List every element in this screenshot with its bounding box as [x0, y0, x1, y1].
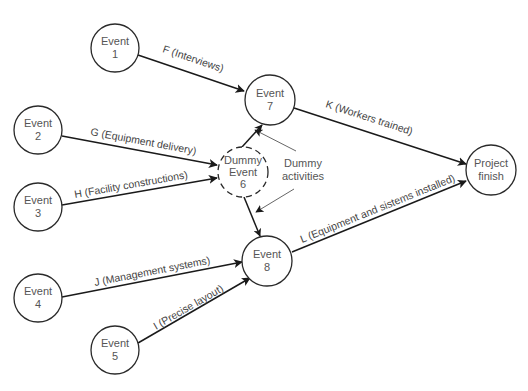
edge-label-F: F (Interviews) — [161, 43, 225, 75]
node-label: Event — [256, 87, 284, 99]
edge-I: I (Precise layout) — [138, 278, 250, 343]
node-dummy-event-6: Dummy Event 6 — [218, 147, 268, 197]
node-event-2: Event 2 — [14, 106, 62, 154]
edge-label-I: I (Precise layout) — [151, 282, 225, 332]
node-project-finish: Project finish — [466, 145, 516, 195]
node-number: 1 — [112, 48, 118, 60]
annotation-line2: activities — [282, 170, 325, 182]
node-event-7: Event 7 — [245, 75, 295, 125]
node-label: Event — [101, 35, 129, 47]
edge-K: K (Workers trained) — [294, 97, 466, 164]
edge-F: F (Interviews) — [138, 43, 244, 91]
node-number: 5 — [112, 350, 118, 362]
edge-H: H (Facility constructions) — [62, 168, 217, 205]
edge-label-K: K (Workers trained) — [324, 97, 414, 136]
node-event-3: Event 3 — [14, 183, 62, 231]
node-label: Event — [101, 337, 129, 349]
dummy-edge-6-7 — [242, 125, 262, 147]
node-label: Event — [24, 194, 52, 206]
node-event-4: Event 4 — [14, 274, 62, 322]
node-label: Project — [474, 157, 508, 169]
node-number: 4 — [35, 298, 41, 310]
edge-L: L (Equipment and sistems installed) — [292, 172, 466, 252]
annotation-line1: Dummy — [284, 157, 322, 169]
node-label-2: Event — [229, 166, 257, 178]
node-number: 8 — [264, 261, 270, 273]
node-label: Event — [253, 248, 281, 260]
edge-G: G (Equipment delivery) — [62, 125, 217, 165]
node-label: Dummy — [224, 154, 262, 166]
node-number: 3 — [35, 207, 41, 219]
node-event-5: Event 5 — [91, 326, 139, 374]
edge-label-H: H (Facility constructions) — [73, 168, 188, 200]
node-label: Event — [24, 285, 52, 297]
node-event-8: Event 8 — [242, 236, 292, 286]
network-diagram: F (Interviews) G (Equipment delivery) H … — [0, 0, 528, 391]
edge-label-L: L (Equipment and sistems installed) — [298, 172, 456, 245]
dummy-activities-annotation: Dummy activities — [282, 157, 325, 182]
node-label-2: finish — [478, 170, 504, 182]
dummy-edge-6-8 — [244, 197, 260, 236]
node-event-1: Event 1 — [91, 24, 139, 72]
node-number: 6 — [240, 178, 246, 190]
node-number: 2 — [35, 130, 41, 142]
node-number: 7 — [267, 100, 273, 112]
node-label: Event — [24, 117, 52, 129]
